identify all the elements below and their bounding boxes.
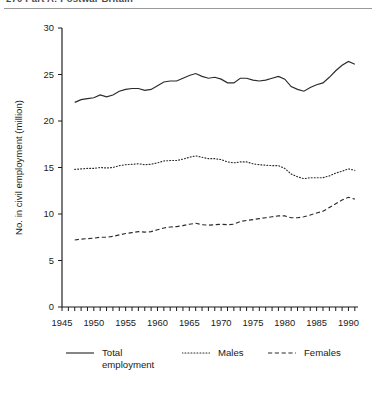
- header-divider: [4, 8, 372, 9]
- legend-label-females: Females: [304, 347, 341, 359]
- legend-item-females: Females: [268, 347, 341, 359]
- legend-item-males: Males: [182, 347, 244, 359]
- running-head-text: 270 Part A: Postwar Britain: [6, 0, 133, 4]
- y-axis-ticks: 051015202530: [44, 22, 62, 312]
- svg-text:0: 0: [49, 301, 54, 312]
- legend-label-males: Males: [218, 347, 244, 359]
- svg-text:5: 5: [49, 255, 54, 266]
- series-females: [75, 197, 355, 240]
- data-series-layer: [75, 61, 355, 240]
- svg-text:10: 10: [44, 208, 54, 219]
- series-males: [75, 156, 355, 179]
- svg-text:1985: 1985: [306, 317, 327, 328]
- legend-swatch-solid-icon: [66, 347, 94, 358]
- chart-plot-area: 051015202530 194519501955196019651970197…: [0, 11, 378, 397]
- svg-text:1990: 1990: [338, 317, 359, 328]
- svg-text:30: 30: [44, 22, 54, 33]
- legend-swatch-dotted-icon: [182, 347, 210, 358]
- svg-text:15: 15: [44, 162, 54, 173]
- legend-item-total: Total employment: [66, 347, 154, 370]
- employment-line-chart: 051015202530 194519501955196019651970197…: [0, 11, 378, 397]
- svg-text:25: 25: [44, 69, 54, 80]
- page-running-head: 270 Part A: Postwar Britain: [0, 0, 378, 11]
- svg-text:1960: 1960: [147, 317, 168, 328]
- svg-text:1970: 1970: [211, 317, 232, 328]
- svg-text:1975: 1975: [243, 317, 264, 328]
- legend-label-total: Total employment: [102, 347, 154, 370]
- svg-text:1950: 1950: [83, 317, 104, 328]
- svg-text:1945: 1945: [52, 317, 73, 328]
- svg-text:20: 20: [44, 115, 54, 126]
- svg-text:1955: 1955: [115, 317, 136, 328]
- chart-legend: Total employment Males Females: [0, 343, 378, 385]
- y-axis-title: No. in civil employment (million): [13, 100, 24, 235]
- x-axis-ticks: 1945195019551960196519701975198019851990: [52, 307, 359, 328]
- series-total-employment: [75, 61, 355, 102]
- svg-text:1980: 1980: [274, 317, 295, 328]
- legend-swatch-dashed-icon: [268, 347, 296, 358]
- svg-text:1965: 1965: [179, 317, 200, 328]
